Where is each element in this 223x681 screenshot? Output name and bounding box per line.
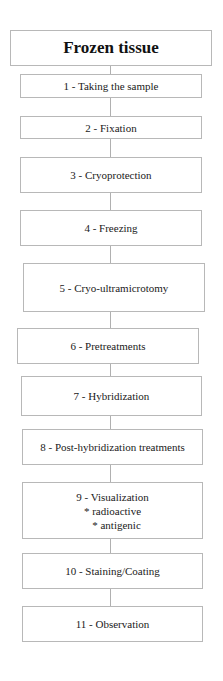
- connector-6-7: [110, 363, 111, 376]
- connector-3-4: [110, 192, 111, 210]
- step-label: 4 - Freezing: [84, 221, 137, 235]
- connector-1-2: [110, 97, 111, 116]
- sub-item-antigenic: * antigenic: [84, 518, 141, 532]
- step-box-2: 2 - Fixation: [20, 116, 202, 139]
- step-label: 5 - Cryo-ultramicrotomy: [60, 281, 169, 295]
- step-label: 7 - Hybridization: [74, 389, 150, 403]
- step-box-7: 7 - Hybridization: [21, 376, 202, 416]
- connector-7-8: [110, 415, 111, 429]
- step-box-3: 3 - Cryoprotection: [20, 157, 202, 193]
- step-label: 9 - Visualization: [76, 490, 148, 504]
- step-label: 11 - Observation: [76, 617, 150, 631]
- connector-9-10: [110, 538, 111, 553]
- step-label: 6 - Pretreatments: [70, 339, 145, 353]
- step-box-6: 6 - Pretreatments: [17, 328, 199, 364]
- connector-4-5: [110, 245, 111, 263]
- step-label: 1 - Taking the sample: [64, 79, 159, 93]
- step-box-4: 4 - Freezing: [20, 210, 202, 246]
- connector-5-6: [110, 311, 111, 328]
- step-box-10: 10 - Staining/Coating: [22, 553, 203, 589]
- connector-2-3: [110, 138, 111, 157]
- step-label: 3 - Cryoprotection: [70, 168, 151, 182]
- connector-8-9: [110, 464, 111, 482]
- step-box-1: 1 - Taking the sample: [20, 74, 202, 98]
- step-box-5: 5 - Cryo-ultramicrotomy: [23, 263, 205, 312]
- step-box-11: 11 - Observation: [22, 606, 203, 642]
- step-box-9: 9 - Visualization * radioactive * antige…: [22, 482, 203, 539]
- title-box: Frozen tissue: [10, 30, 212, 66]
- step-label: 2 - Fixation: [85, 121, 136, 135]
- step-box-8: 8 - Post-hybridization treatments: [22, 429, 203, 465]
- diagram-title: Frozen tissue: [63, 41, 159, 55]
- step-label: 8 - Post-hybridization treatments: [40, 440, 185, 454]
- sub-item-radioactive: * radioactive: [84, 504, 141, 518]
- step-label: 10 - Staining/Coating: [65, 564, 160, 578]
- connector-10-11: [110, 588, 111, 606]
